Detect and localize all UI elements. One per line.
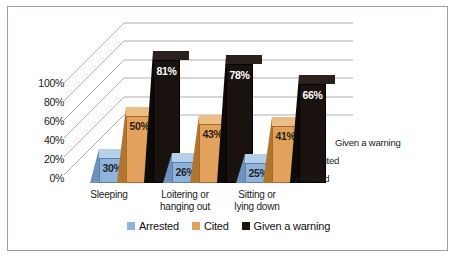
- chart-frame: 100% 80% 60% 40% 20% 0% 30% 50% 81%: [7, 6, 448, 251]
- y-tick-label: 60%: [20, 116, 64, 126]
- legend-item-given-a-warning: Given a warning: [242, 220, 331, 232]
- bar-value-label: 66%: [299, 89, 326, 101]
- x-category-line: lying down: [221, 201, 293, 213]
- chart-legend: Arrested Cited Given a warning: [8, 220, 449, 232]
- bar-side-face: [190, 115, 199, 183]
- y-tick-label: 0%: [20, 173, 64, 183]
- bar-top-face: [299, 75, 335, 84]
- z-axis-label-cited: Cited: [318, 155, 339, 166]
- bar-value-label: 78%: [226, 69, 253, 81]
- legend-swatch-icon: [242, 222, 250, 230]
- y-tick-label: 100%: [20, 78, 64, 88]
- legend-swatch-icon: [192, 222, 200, 230]
- bar-side-face: [90, 149, 99, 183]
- x-category-line: Sleeping: [74, 189, 144, 201]
- y-tick-label: 40%: [20, 135, 64, 145]
- bar-top-face: [226, 55, 262, 64]
- x-category-line: Sitting or: [221, 189, 293, 201]
- y-tick-label: 20%: [20, 154, 64, 164]
- chart-plot-area: 100% 80% 60% 40% 20% 0% 30% 50% 81%: [8, 7, 449, 252]
- legend-item-cited: Cited: [192, 220, 229, 232]
- x-category-line: Loitering or: [147, 189, 223, 201]
- bar-warning-sitting: 66%: [290, 75, 326, 183]
- legend-label: Cited: [204, 220, 229, 232]
- x-category-line: hanging out: [147, 201, 223, 213]
- y-tick-label: 80%: [20, 97, 64, 107]
- x-category-label-sitting: Sitting or lying down: [221, 189, 293, 212]
- x-category-label-loitering: Loitering or hanging out: [147, 189, 223, 212]
- legend-item-arrested: Arrested: [127, 220, 179, 232]
- bar-side-face: [117, 107, 126, 183]
- legend-swatch-icon: [127, 222, 135, 230]
- z-axis-label-given-a-warning: Given a warning: [335, 137, 401, 148]
- bar-side-face: [217, 55, 226, 183]
- x-category-label-sleeping: Sleeping: [74, 189, 144, 201]
- bar-side-face: [144, 51, 153, 183]
- bar-side-face: [290, 75, 299, 183]
- bar-side-face: [163, 153, 172, 183]
- bar-value-label: 81%: [153, 65, 180, 77]
- legend-label: Arrested: [139, 220, 179, 232]
- bar-side-face: [236, 154, 245, 183]
- z-axis-label-arrested: Arrested: [295, 173, 329, 184]
- bar-top-face: [153, 51, 189, 60]
- y-axis: 100% 80% 60% 40% 20% 0%: [16, 7, 64, 252]
- bar-side-face: [263, 117, 272, 183]
- legend-label: Given a warning: [254, 220, 331, 232]
